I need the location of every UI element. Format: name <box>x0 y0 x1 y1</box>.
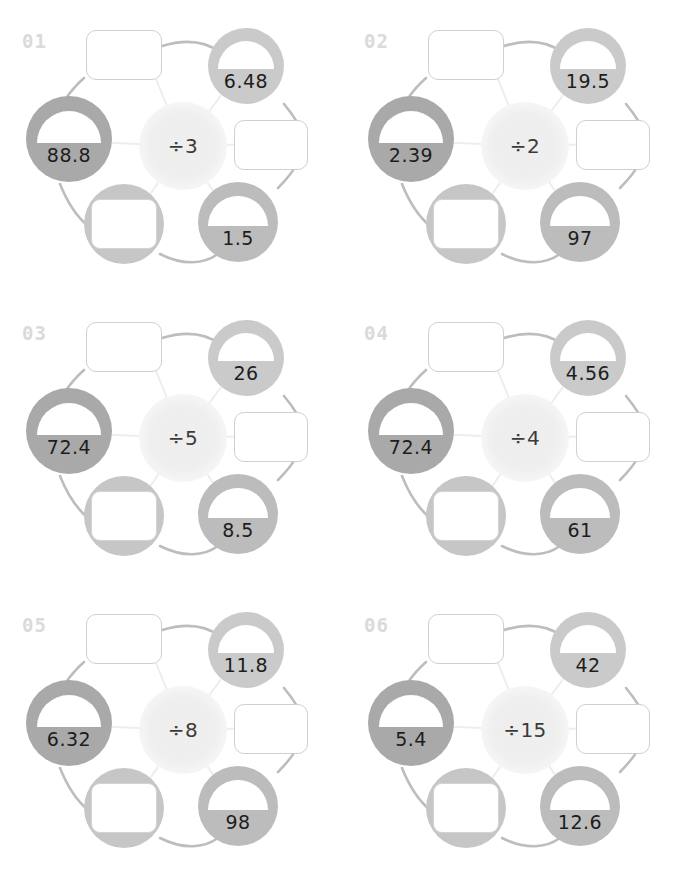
value-node-left: 2.39 <box>368 96 454 182</box>
operator-text: ÷5 <box>168 426 198 450</box>
wheel-hub: ÷2 <box>481 102 569 190</box>
dome-shape <box>560 41 616 69</box>
wheel-hub: ÷5 <box>139 394 227 482</box>
value-node-bottom-left <box>84 768 164 848</box>
value-text-left: 2.39 <box>368 144 454 166</box>
dome-shape <box>218 41 274 69</box>
value-text-left: 72.4 <box>26 436 112 458</box>
value-node-top-right: 4.56 <box>550 320 626 396</box>
wheel-hub: ÷4 <box>481 394 569 482</box>
division-wheel: 42 5.4 12.6 ÷15 <box>380 596 670 864</box>
answer-box-right[interactable] <box>234 704 308 754</box>
wheel-hub: ÷8 <box>139 686 227 774</box>
value-node-bottom-right: 1.5 <box>198 182 278 262</box>
answer-box-right[interactable] <box>576 704 650 754</box>
value-node-bottom-right: 8.5 <box>198 474 278 554</box>
dome-shape <box>208 488 268 518</box>
dome-shape <box>379 111 443 143</box>
value-text-top-right: 11.8 <box>208 654 284 676</box>
division-wheel: 26 72.4 8.5 ÷5 <box>38 304 328 572</box>
operator-text: ÷2 <box>510 134 540 158</box>
value-node-left: 72.4 <box>368 388 454 474</box>
puzzle-card-03: 03 <box>0 292 342 584</box>
dome-shape <box>37 695 101 727</box>
answer-box-top-left[interactable] <box>428 30 504 80</box>
puzzle-card-02: 02 <box>342 0 684 292</box>
answer-box-top-left[interactable] <box>86 30 162 80</box>
dome-shape <box>218 625 274 653</box>
value-text-bottom-right: 1.5 <box>198 227 278 249</box>
value-node-top-right: 6.48 <box>208 28 284 104</box>
puzzle-card-04: 04 <box>342 292 684 584</box>
value-text-top-right: 19.5 <box>550 70 626 92</box>
puzzle-card-06: 06 <box>342 584 684 876</box>
link-bottomleft-bottomright <box>502 546 560 554</box>
value-text-top-right: 42 <box>550 654 626 676</box>
value-node-left: 6.32 <box>26 680 112 766</box>
value-text-left: 6.32 <box>26 728 112 750</box>
division-wheel: 4.56 72.4 61 ÷4 <box>380 304 670 572</box>
puzzle-card-01: 01 <box>0 0 342 292</box>
answer-box-right[interactable] <box>576 412 650 462</box>
value-node-left: 72.4 <box>26 388 112 474</box>
dome-shape <box>550 780 610 810</box>
value-node-bottom-right: 98 <box>198 766 278 846</box>
answer-box-bottom-left[interactable] <box>91 199 157 249</box>
link-bottomleft-bottomright <box>160 546 218 554</box>
division-wheel: 19.5 2.39 97 ÷2 <box>380 12 670 280</box>
value-node-bottom-right: 97 <box>540 182 620 262</box>
answer-box-bottom-left[interactable] <box>433 491 499 541</box>
answer-box-right[interactable] <box>576 120 650 170</box>
wheel-hub: ÷3 <box>139 102 227 190</box>
answer-box-bottom-left[interactable] <box>91 783 157 833</box>
dome-shape <box>379 403 443 435</box>
value-node-bottom-left <box>426 768 506 848</box>
dome-shape <box>550 196 610 226</box>
dome-shape <box>379 695 443 727</box>
division-wheel: 11.8 6.32 98 ÷8 <box>38 596 328 864</box>
value-text-top-right: 4.56 <box>550 362 626 384</box>
value-text-left: 5.4 <box>368 728 454 750</box>
value-node-top-right: 11.8 <box>208 612 284 688</box>
value-node-top-right: 19.5 <box>550 28 626 104</box>
operator-text: ÷8 <box>168 718 198 742</box>
dome-shape <box>208 780 268 810</box>
operator-text: ÷3 <box>168 134 198 158</box>
link-bottomleft-bottomright <box>160 838 218 846</box>
dome-shape <box>560 333 616 361</box>
answer-box-right[interactable] <box>234 120 308 170</box>
dome-shape <box>550 488 610 518</box>
answer-box-top-left[interactable] <box>86 614 162 664</box>
value-node-bottom-right: 12.6 <box>540 766 620 846</box>
link-bottomleft-bottomright <box>502 254 560 262</box>
answer-box-top-left[interactable] <box>428 322 504 372</box>
answer-box-bottom-left[interactable] <box>433 783 499 833</box>
answer-box-bottom-left[interactable] <box>433 199 499 249</box>
operator-text: ÷15 <box>503 718 547 742</box>
value-node-bottom-left <box>84 184 164 264</box>
value-text-left: 88.8 <box>26 144 112 166</box>
answer-box-right[interactable] <box>234 412 308 462</box>
value-text-top-right: 6.48 <box>208 70 284 92</box>
wheel-hub: ÷15 <box>481 686 569 774</box>
value-node-bottom-left <box>84 476 164 556</box>
operator-text: ÷4 <box>510 426 540 450</box>
dome-shape <box>560 625 616 653</box>
answer-box-bottom-left[interactable] <box>91 491 157 541</box>
value-node-bottom-left <box>426 476 506 556</box>
value-text-top-right: 26 <box>208 362 284 384</box>
value-text-bottom-right: 97 <box>540 227 620 249</box>
division-wheel: 6.48 88.8 1.5 ÷3 <box>38 12 328 280</box>
dome-shape <box>37 403 101 435</box>
puzzle-card-05: 05 <box>0 584 342 876</box>
value-text-bottom-right: 12.6 <box>540 811 620 833</box>
dome-shape <box>37 111 101 143</box>
dome-shape <box>208 196 268 226</box>
link-bottomleft-bottomright <box>502 838 560 846</box>
value-text-bottom-right: 98 <box>198 811 278 833</box>
value-node-left: 5.4 <box>368 680 454 766</box>
value-node-bottom-left <box>426 184 506 264</box>
answer-box-top-left[interactable] <box>428 614 504 664</box>
answer-box-top-left[interactable] <box>86 322 162 372</box>
worksheet-grid: 01 <box>0 0 684 876</box>
